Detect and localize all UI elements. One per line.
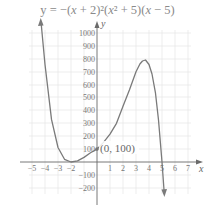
svg-text:400: 400	[83, 106, 95, 115]
x-tick-labels: −5 −4 −3 −2 1 2 3 4 5 6 7	[28, 164, 190, 173]
x-axis-label: x	[198, 163, 204, 174]
svg-text:3: 3	[134, 164, 138, 173]
point-marker	[95, 147, 99, 151]
svg-text:−100: −100	[78, 171, 95, 180]
svg-text:900: 900	[83, 42, 95, 51]
y-axis-arrow-icon	[95, 21, 100, 28]
svg-text:1000: 1000	[79, 29, 95, 38]
svg-text:200: 200	[83, 132, 95, 141]
svg-text:700: 700	[83, 68, 95, 77]
svg-text:−4: −4	[41, 164, 50, 173]
svg-text:800: 800	[83, 55, 95, 64]
svg-text:5: 5	[160, 164, 164, 173]
y-tick-labels: 1000 900 800 700 600 500 400 300 200 100…	[72, 28, 95, 193]
axes	[20, 21, 203, 205]
curve-up-arrow-icon	[38, 18, 44, 26]
svg-text:600: 600	[83, 81, 95, 90]
svg-text:300: 300	[83, 119, 95, 128]
svg-text:7: 7	[186, 164, 190, 173]
svg-text:6: 6	[173, 164, 177, 173]
svg-text:−200: −200	[78, 184, 95, 193]
svg-text:1: 1	[108, 164, 112, 173]
svg-text:−3: −3	[54, 164, 63, 173]
svg-text:100: 100	[83, 145, 95, 154]
point-label: (0, 100)	[100, 142, 135, 155]
chart-plot: (0, 100) −5 −4 −3 −2 1 2 3 4 5 6 7 x 100…	[0, 0, 215, 216]
svg-text:4: 4	[147, 164, 151, 173]
svg-text:−5: −5	[28, 164, 37, 173]
svg-text:500: 500	[83, 93, 95, 102]
svg-text:2: 2	[121, 164, 125, 173]
y-axis-label: y	[100, 18, 106, 29]
